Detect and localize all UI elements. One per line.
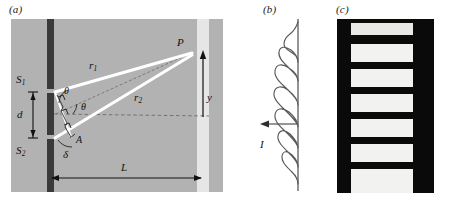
panel-c-fringe-photograph — [337, 19, 434, 193]
fringe-strip — [351, 19, 413, 193]
bright-fringe — [351, 69, 413, 87]
panel-a-svg — [11, 19, 223, 192]
path-difference-label: δ — [63, 149, 68, 160]
panel-b-svg — [252, 17, 314, 193]
slit-separation-label: d — [17, 109, 23, 120]
figure-root: (a) — [0, 0, 449, 201]
panel-label-a: (a) — [9, 3, 22, 15]
bright-fringe — [351, 169, 413, 193]
screen-distance-label: L — [121, 162, 127, 173]
bright-fringe — [351, 119, 413, 137]
slit-2-label: S2 — [16, 145, 25, 158]
ray-r1-label: r1 — [89, 60, 97, 73]
barrier-lower-segment — [47, 139, 54, 192]
bright-fringe — [351, 144, 413, 162]
bright-fringe — [351, 44, 413, 62]
intensity-curve — [274, 22, 298, 184]
barrier-upper-segment — [47, 19, 54, 89]
panel-label-c: (c) — [336, 3, 349, 15]
barrier-middle-segment — [47, 93, 54, 135]
fringe-photo-frame — [337, 19, 434, 193]
slit-1-label: S1 — [16, 74, 25, 87]
bright-fringe — [351, 23, 413, 35]
panel-a-diagram: S1 S2 d r1 r2 P L y θ θ A δ — [11, 19, 223, 192]
panel-b-intensity-plot: I — [252, 17, 314, 193]
intensity-arrowhead — [260, 121, 269, 128]
y-axis-label: y — [207, 92, 212, 103]
panel-a-background — [11, 19, 223, 192]
foot-point-a-label: A — [76, 135, 82, 145]
intensity-axis-label: I — [260, 138, 264, 150]
ray-r2-label: r2 — [134, 92, 142, 105]
point-p-label: P — [177, 37, 184, 48]
angle-theta-lower-label: θ — [81, 102, 86, 112]
panel-label-b: (b) — [263, 3, 276, 15]
bright-fringe — [351, 94, 413, 112]
angle-theta-upper-label: θ — [64, 86, 69, 96]
